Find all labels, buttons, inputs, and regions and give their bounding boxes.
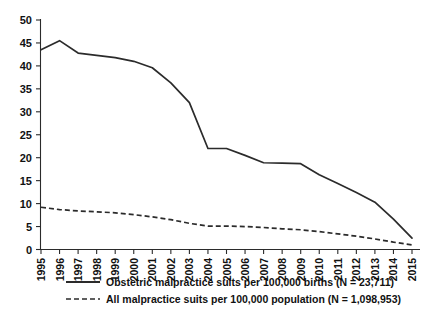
y-tick-label: 15 [20,175,32,187]
y-tick-label: 5 [26,221,32,233]
y-tick-label: 0 [26,244,32,256]
x-tick-label: 1996 [54,258,66,282]
line-chart: 05101520253035404550 1995199619971998199… [0,0,434,320]
x-tick-label: 2015 [406,258,418,282]
x-tick-label: 1997 [72,258,84,282]
y-tick-label: 40 [20,60,32,72]
chart-figure: 05101520253035404550 1995199619971998199… [0,0,434,320]
y-tick-label: 35 [20,83,32,95]
x-tick-label: 1995 [35,258,47,282]
y-tick-label: 20 [20,152,32,164]
y-tick-label: 30 [20,106,32,118]
legend-label-2: All malpractice suits per 100,000 popula… [106,293,401,305]
legend-label-1: Obstetric malpractice suits per 100,000 … [106,276,394,288]
y-tick-label: 10 [20,198,32,210]
y-tick-label: 25 [20,129,32,141]
y-tick-label: 45 [20,37,32,49]
x-axis-ticks [41,250,412,255]
x-tick-label: 1998 [91,258,103,282]
y-tick-label: 50 [20,14,32,26]
